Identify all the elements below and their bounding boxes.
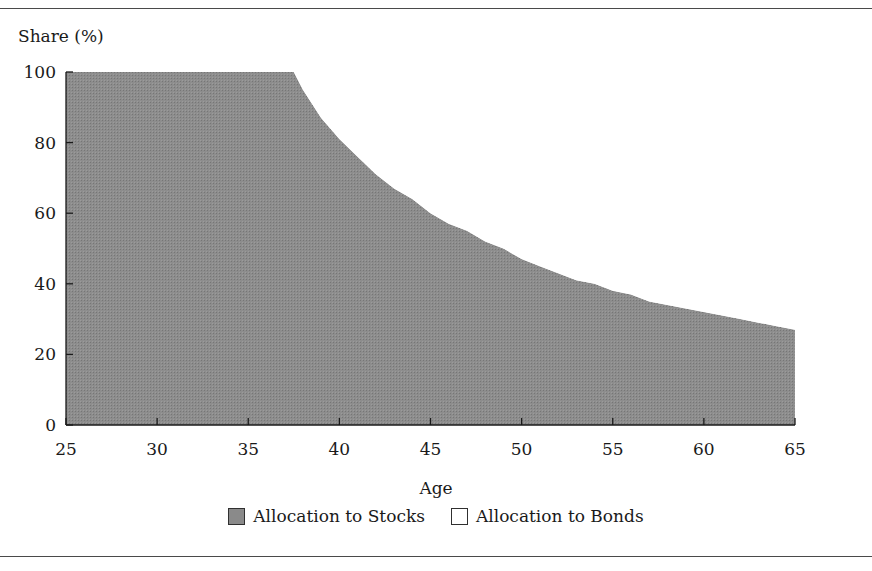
x-tick-label: 60: [674, 441, 734, 458]
legend-label-stocks: Allocation to Stocks: [253, 508, 425, 525]
x-tick-label: 30: [127, 441, 187, 458]
y-tick-label: 80: [12, 135, 56, 152]
y-tick-label: 20: [12, 346, 56, 363]
legend-swatch-stocks: [228, 508, 245, 525]
legend-label-bonds: Allocation to Bonds: [476, 508, 644, 525]
x-tick-label: 40: [309, 441, 369, 458]
x-tick-label: 55: [583, 441, 643, 458]
x-tick-label: 45: [401, 441, 461, 458]
x-tick-label: 65: [765, 441, 825, 458]
y-tick-label: 40: [12, 276, 56, 293]
chart-figure: Share (%) 020406080100 25303540455055606…: [0, 0, 872, 571]
x-axis-label: Age: [0, 478, 872, 498]
x-tick-label: 50: [492, 441, 552, 458]
chart-legend: Allocation to Stocks Allocation to Bonds: [0, 508, 872, 525]
y-tick-label: 100: [12, 64, 56, 81]
y-tick-label: 60: [12, 205, 56, 222]
legend-swatch-bonds: [451, 508, 468, 525]
legend-item-bonds: Allocation to Bonds: [451, 508, 644, 525]
x-tick-label: 35: [218, 441, 278, 458]
x-tick-label: 25: [36, 441, 96, 458]
legend-item-stocks: Allocation to Stocks: [228, 508, 425, 525]
y-tick-label: 0: [12, 417, 56, 434]
